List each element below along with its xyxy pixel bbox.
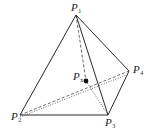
label-p1-base: P	[71, 1, 78, 13]
label-p1-sub: 1	[78, 8, 81, 14]
edge-p1-p2	[20, 15, 76, 115]
label-p2-sub: 2	[18, 117, 21, 123]
label-p3-sub: 3	[112, 123, 115, 129]
label-p3-base: P	[105, 116, 112, 128]
label-p4-sub: 4	[140, 70, 143, 76]
edge-p3-p4	[108, 71, 129, 115]
label-p4: P4	[133, 64, 143, 76]
edge-px-p3-dotted	[86, 81, 108, 115]
label-p4-base: P	[133, 63, 140, 75]
label-p2: P2	[11, 111, 21, 123]
tetrahedron-diagram	[0, 0, 152, 136]
label-px-sub: x	[80, 77, 83, 83]
label-p1: P1	[71, 2, 81, 14]
label-p3: P3	[105, 117, 115, 129]
label-px-base: P	[73, 70, 80, 82]
point-px	[84, 79, 89, 84]
edge-p1-p3	[76, 15, 108, 115]
label-p2-base: P	[11, 110, 18, 122]
edge-p1-p4	[76, 15, 129, 71]
label-px: Px	[73, 71, 83, 83]
